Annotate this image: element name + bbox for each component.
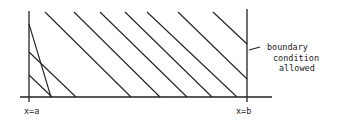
hatch-line [29, 52, 76, 97]
annotation-line-1: boundary [267, 42, 308, 52]
annotation-line-2: condition [273, 53, 319, 63]
hatch-line [29, 75, 52, 97]
hatch-line [178, 12, 247, 79]
hatched-domain-diagram: x=a x=b boundary condition allowed [0, 0, 342, 123]
annotation-arrow [249, 47, 260, 50]
hatch-lines [29, 12, 247, 97]
left-label: x=a [24, 106, 39, 116]
hatch-line [125, 12, 212, 97]
hatch-line [74, 12, 160, 97]
hatch-line [100, 12, 187, 97]
right-label: x=b [236, 106, 251, 116]
hatch-line [45, 12, 131, 97]
hatch-line [147, 12, 237, 97]
hatch-line [213, 12, 247, 44]
annotation-line-3: allowed [279, 63, 315, 73]
